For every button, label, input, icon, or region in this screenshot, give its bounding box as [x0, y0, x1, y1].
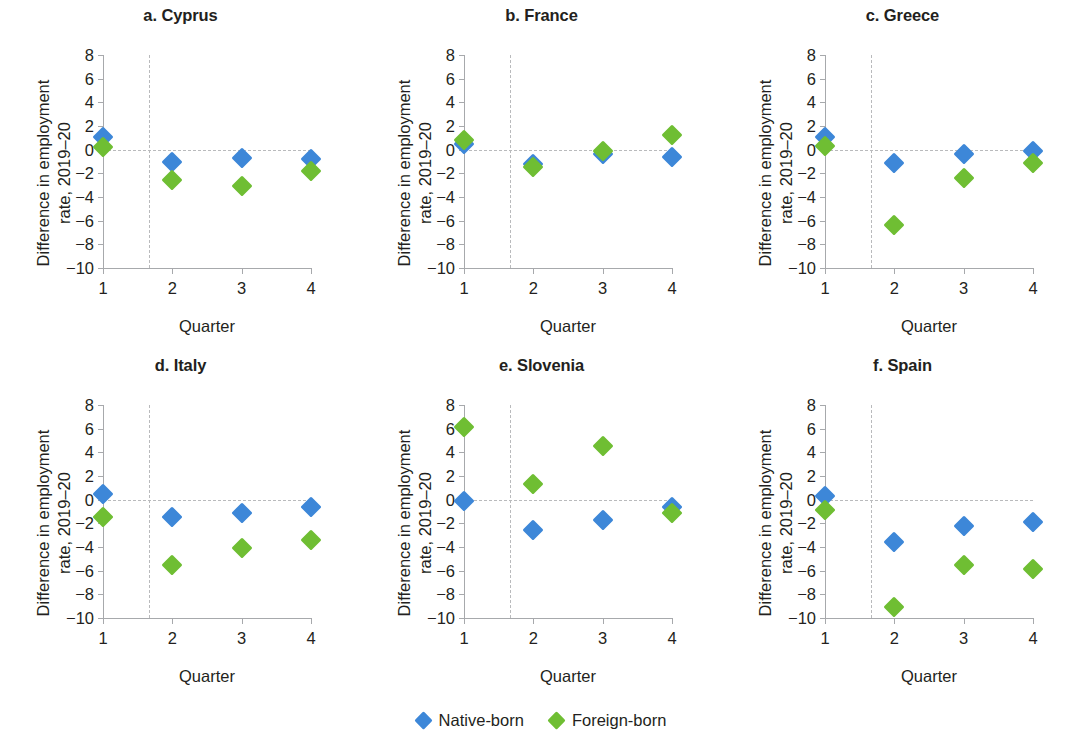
y-axis-tick-label: −2 [75, 164, 94, 183]
y-axis-tick-label: −10 [788, 259, 816, 278]
y-axis-tick-label: −2 [797, 514, 816, 533]
x-axis-tick-label: 2 [168, 629, 177, 648]
x-axis-tick [894, 268, 895, 274]
x-axis-tick-label: 4 [667, 629, 676, 648]
y-axis-tick-label: −10 [427, 609, 455, 628]
y-axis-tick-label: 6 [85, 419, 94, 438]
x-axis-tick [103, 618, 104, 624]
data-point-marker [523, 474, 544, 495]
x-axis-tick-label: 2 [529, 279, 538, 298]
data-point-marker [884, 597, 905, 618]
zero-reference-line [464, 150, 672, 151]
y-axis-tick-label: 6 [85, 69, 94, 88]
x-axis-label: Quarter [103, 667, 311, 686]
legend-entry: Native-born [417, 711, 524, 730]
x-axis-tick [464, 618, 465, 624]
chart-panel: c. GreeceDifference in employmentrate, 2… [722, 0, 1083, 350]
x-axis-tick-label: 1 [820, 629, 829, 648]
x-axis-tick-label: 3 [237, 279, 246, 298]
y-axis-tick-label: 2 [807, 117, 816, 136]
x-axis-tick [1033, 268, 1034, 274]
y-axis-tick-label: −4 [797, 538, 816, 557]
zero-reference-line [103, 500, 311, 501]
zero-reference-line [464, 500, 672, 501]
vertical-reference-line [149, 405, 150, 618]
data-point-marker [231, 502, 252, 523]
plot-area: 86420−2−4−6−8−101234Quarter [825, 55, 1033, 268]
data-point-marker [884, 152, 905, 173]
plot-area: 86420−2−4−6−8−101234Quarter [103, 405, 311, 618]
y-axis-label: Difference in employmentrate, 2019–20 [33, 57, 75, 289]
plot-area: 86420−2−4−6−8−101234Quarter [464, 55, 672, 268]
y-axis-tick-label: 4 [85, 443, 94, 462]
plot-area: 86420−2−4−6−8−101234Quarter [464, 405, 672, 618]
y-axis-tick-label: 6 [807, 419, 816, 438]
data-point-marker [92, 483, 113, 504]
x-axis-tick-label: 2 [890, 629, 899, 648]
zero-reference-line [825, 500, 1033, 501]
data-point-marker [661, 125, 682, 146]
y-axis-label: Difference in employmentrate, 2019–20 [394, 57, 436, 289]
x-axis-tick [1033, 618, 1034, 624]
y-axis-tick-label: 4 [446, 93, 455, 112]
x-axis-label: Quarter [464, 317, 672, 336]
y-axis-tick-label: −10 [66, 609, 94, 628]
chart-panel: b. FranceDifference in employmentrate, 2… [361, 0, 722, 350]
x-axis-tick [311, 618, 312, 624]
x-axis-tick [894, 618, 895, 624]
panel-title: b. France [361, 6, 722, 25]
y-axis-tick-label: −6 [436, 561, 455, 580]
data-point-marker [592, 509, 613, 530]
x-axis-tick-label: 2 [168, 279, 177, 298]
y-axis-tick-label: 4 [446, 443, 455, 462]
y-axis-tick-label: −6 [75, 211, 94, 230]
y-axis-tick-label: 2 [446, 117, 455, 136]
y-axis-label-line1: Difference in employment [755, 407, 776, 639]
y-axis-label-line1: Difference in employment [33, 57, 54, 289]
y-axis-tick-label: −6 [436, 211, 455, 230]
x-axis-tick [103, 268, 104, 274]
y-axis-tick-label: −4 [75, 188, 94, 207]
x-axis-tick [603, 618, 604, 624]
y-axis-tick-label: 8 [807, 396, 816, 415]
y-axis-tick-label: −4 [797, 188, 816, 207]
x-axis-tick [533, 618, 534, 624]
y-axis-tick-label: 2 [446, 467, 455, 486]
panel-title: e. Slovenia [361, 356, 722, 375]
y-axis-tick-label: 8 [85, 46, 94, 65]
x-axis-line [825, 618, 1033, 619]
data-point-marker [1022, 512, 1043, 533]
panel-title: d. Italy [0, 356, 361, 375]
legend-entry: Foreign-born [550, 711, 666, 730]
y-axis-tick-label: 4 [807, 443, 816, 462]
panel-title: c. Greece [722, 6, 1083, 25]
y-axis-tick-label: −2 [436, 164, 455, 183]
y-axis-tick-label: −10 [788, 609, 816, 628]
y-axis-tick-label: 4 [85, 93, 94, 112]
x-axis-tick [825, 268, 826, 274]
panel-grid: a. CyprusDifference in employmentrate, 2… [0, 0, 1083, 700]
diamond-marker-icon [414, 711, 432, 729]
y-axis-tick-label: −8 [75, 235, 94, 254]
data-point-marker [162, 170, 183, 191]
y-axis-tick-label: −2 [436, 514, 455, 533]
y-axis-label: Difference in employmentrate, 2019–20 [755, 407, 797, 639]
x-axis-tick [964, 268, 965, 274]
data-point-marker [300, 160, 321, 181]
y-axis-tick-label: −10 [427, 259, 455, 278]
x-axis-tick-label: 4 [306, 629, 315, 648]
x-axis-label: Quarter [103, 317, 311, 336]
chart-panel: f. SpainDifference in employmentrate, 20… [722, 350, 1083, 700]
y-axis-label-line2: rate, 2019–20 [54, 407, 75, 639]
data-point-marker [592, 436, 613, 457]
x-axis-tick-label: 3 [598, 629, 607, 648]
y-axis-tick-label: 2 [807, 467, 816, 486]
y-axis-tick-label: −4 [75, 538, 94, 557]
y-axis-tick-label: 8 [446, 396, 455, 415]
y-axis-tick-label: −4 [436, 538, 455, 557]
y-axis-label-line1: Difference in employment [394, 407, 415, 639]
data-point-marker [162, 507, 183, 528]
y-axis-tick-label: 6 [446, 69, 455, 88]
diamond-marker-icon [547, 711, 565, 729]
y-axis-label: Difference in employmentrate, 2019–20 [33, 407, 75, 639]
